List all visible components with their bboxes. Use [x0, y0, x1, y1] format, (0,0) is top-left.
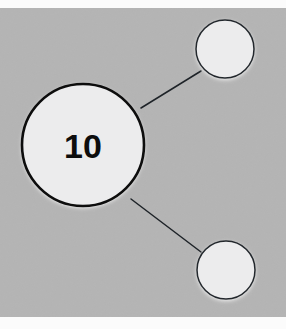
node-top-right[interactable] [196, 20, 254, 78]
node-circle[interactable] [197, 241, 255, 299]
node-bottom-right[interactable] [197, 241, 255, 299]
node-label: 10 [64, 127, 102, 165]
node-graph: 10 [0, 0, 286, 329]
node-main[interactable]: 10 [22, 84, 144, 206]
diagram-canvas: 10 [0, 0, 286, 329]
node-circle[interactable] [196, 20, 254, 78]
